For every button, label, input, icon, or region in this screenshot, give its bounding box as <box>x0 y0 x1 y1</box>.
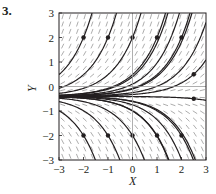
field-segment <box>178 118 182 122</box>
field-segment <box>84 44 86 49</box>
field-segment <box>201 51 204 56</box>
field-segment <box>61 74 65 77</box>
field-segment <box>143 29 145 34</box>
field-segment <box>120 125 123 129</box>
field-segment <box>120 139 122 144</box>
field-segment <box>120 36 122 41</box>
field-segment <box>186 66 189 70</box>
field-segment <box>62 147 64 152</box>
field-segment <box>76 139 78 144</box>
field-segment <box>172 154 174 159</box>
field-segment <box>69 51 72 56</box>
field-segment <box>193 125 196 129</box>
field-segment <box>148 90 153 91</box>
field-segment <box>75 82 80 85</box>
field-segment <box>164 139 166 144</box>
initial-point-dot <box>81 133 85 137</box>
field-segment <box>180 14 182 19</box>
field-segment <box>163 111 167 114</box>
y-tick-label: −3 <box>42 154 54 166</box>
field-segment <box>121 22 123 27</box>
field-segment <box>68 111 72 114</box>
x-tick-label: −2 <box>78 163 90 175</box>
field-segment <box>128 29 130 34</box>
field-segment <box>201 44 203 49</box>
field-segment <box>113 44 115 49</box>
field-segment <box>157 125 160 129</box>
field-segment <box>91 51 94 56</box>
field-segment <box>75 118 79 122</box>
field-segment <box>68 74 72 77</box>
field-segment <box>121 14 123 19</box>
field-segment <box>98 59 101 63</box>
initial-point-dot <box>192 72 196 76</box>
field-segment <box>69 44 71 49</box>
field-segment <box>128 36 130 41</box>
field-segment <box>142 51 145 56</box>
field-segment <box>91 29 93 34</box>
field-segment <box>99 29 101 34</box>
y-tick-label: −2 <box>42 130 54 142</box>
field-segment <box>165 36 167 41</box>
field-segment <box>142 139 144 144</box>
field-segment <box>68 66 71 70</box>
field-segment <box>178 90 183 91</box>
slope-field-chart: −3−2−10123−3−2−10123 X Y <box>0 0 216 194</box>
field-segment <box>150 154 152 159</box>
field-segment <box>106 14 108 19</box>
field-segment <box>186 44 188 49</box>
field-segment <box>76 59 79 63</box>
field-segment <box>97 74 101 77</box>
field-segment <box>62 154 64 159</box>
field-segment <box>135 36 137 41</box>
field-segment <box>97 111 101 114</box>
field-segment <box>135 51 138 56</box>
field-segment <box>60 82 65 85</box>
field-segment <box>143 14 145 19</box>
field-segment <box>62 29 64 34</box>
initial-point-dot <box>155 133 159 137</box>
field-segment <box>105 51 108 56</box>
field-segment <box>75 111 79 114</box>
field-segment <box>193 111 197 114</box>
field-segment <box>200 104 205 106</box>
field-segment <box>106 44 108 49</box>
field-segment <box>69 29 71 34</box>
field-segment <box>170 104 175 106</box>
field-segment <box>194 132 197 136</box>
field-segment <box>105 66 108 70</box>
field-segment <box>84 14 86 19</box>
field-segment <box>170 90 175 91</box>
field-segment <box>172 44 174 49</box>
field-segment <box>172 147 174 152</box>
field-segment <box>119 74 123 77</box>
field-segment <box>98 139 100 144</box>
field-segment <box>120 44 122 49</box>
field-segment <box>135 147 137 152</box>
field-segment <box>69 36 71 41</box>
field-segment <box>91 22 93 27</box>
field-segment <box>127 132 130 136</box>
field-segment <box>69 14 71 19</box>
field-segment <box>143 22 145 27</box>
field-segment <box>135 14 137 19</box>
field-segment <box>201 132 204 136</box>
field-segment <box>98 36 100 41</box>
field-segment <box>179 51 182 56</box>
field-segment <box>83 66 86 70</box>
field-segment <box>82 90 87 91</box>
field-segment <box>186 118 190 122</box>
field-segment <box>157 44 159 49</box>
field-segment <box>172 22 174 27</box>
field-segment <box>193 59 196 63</box>
field-segment <box>98 118 102 122</box>
field-segment <box>149 118 153 122</box>
field-segment <box>77 22 79 27</box>
field-segment <box>171 111 175 114</box>
field-segment <box>113 139 115 144</box>
field-segment <box>157 154 159 159</box>
field-segment <box>113 125 116 129</box>
field-segment <box>76 132 79 136</box>
field-segment <box>194 36 196 41</box>
field-segment <box>98 44 100 49</box>
